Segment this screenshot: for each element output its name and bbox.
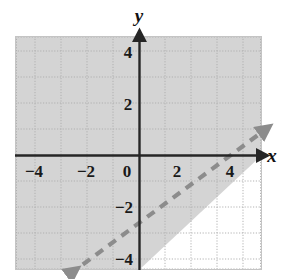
y-tick-label-neg2: −2 [115,198,133,217]
graph-figure: x y −4 −2 0 2 4 4 2 −2 −4 [0,0,293,279]
x-tick-label-4: 4 [226,162,235,181]
x-tick-label-neg4: −4 [25,162,44,181]
x-tick-label-neg2: −2 [77,162,95,181]
y-tick-label-neg4: −4 [115,250,134,269]
x-tick-label-zero: 0 [123,162,132,181]
coordinate-plane: x y −4 −2 0 2 4 4 2 −2 −4 [0,0,293,279]
x-tick-label-2: 2 [173,162,182,181]
x-axis-label: x [266,145,277,166]
y-tick-label-2: 2 [124,95,133,114]
y-axis-label: y [133,5,144,26]
y-tick-label-4: 4 [124,43,133,62]
